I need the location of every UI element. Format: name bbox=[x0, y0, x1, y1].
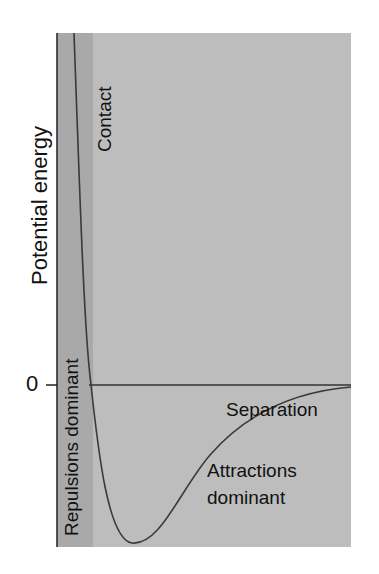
repulsion-label: Repulsions dominant bbox=[61, 359, 83, 536]
attraction-label: Attractions dominant bbox=[207, 457, 297, 511]
zero-label: 0 bbox=[26, 371, 38, 397]
diagram-graphics bbox=[0, 0, 379, 574]
separation-label: Separation bbox=[226, 399, 318, 421]
attraction-label-line1: Attractions bbox=[207, 457, 297, 484]
attraction-label-line2: dominant bbox=[207, 484, 297, 511]
potential-energy-diagram: Potential energy 0 Contact Repulsions do… bbox=[0, 0, 379, 574]
contact-label: Contact bbox=[94, 87, 116, 152]
y-axis-label: Potential energy bbox=[27, 126, 53, 285]
